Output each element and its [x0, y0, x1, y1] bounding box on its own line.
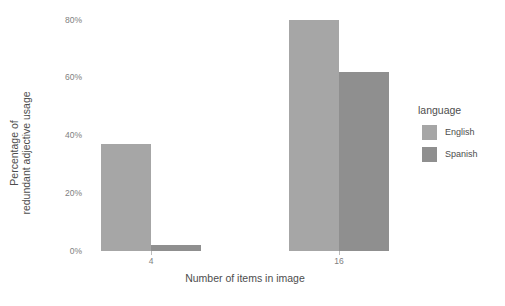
legend-swatch-icon	[422, 147, 437, 162]
y-tick-label: 0%	[36, 246, 82, 256]
y-axis-title-line-1: Percentage of	[8, 91, 21, 214]
plot-area	[85, 8, 405, 251]
legend-items: EnglishSpanish	[418, 122, 503, 164]
x-tick-label: 4	[149, 256, 154, 266]
y-tick-label: 80%	[36, 15, 82, 25]
x-tick-mark	[339, 251, 340, 255]
x-axis-title: Number of items in image	[85, 272, 405, 284]
bar-chart: Percentage of redundant adjective usage …	[0, 0, 505, 306]
bar	[289, 20, 339, 251]
x-tick-mark	[151, 251, 152, 255]
legend-item-english[interactable]: English	[418, 122, 503, 142]
legend-swatch-icon	[422, 125, 437, 140]
y-tick-label: 20%	[36, 188, 82, 198]
legend-title: language	[418, 104, 503, 116]
y-tick-mark	[79, 77, 82, 78]
y-tick-label: 40%	[36, 130, 82, 140]
y-tick-mark	[79, 251, 82, 252]
y-axis-title: Percentage of redundant adjective usage	[0, 0, 40, 306]
y-tick-mark	[79, 20, 82, 21]
legend-label: Spanish	[445, 149, 478, 159]
bar	[101, 144, 151, 251]
y-tick-mark	[79, 135, 82, 136]
bar	[339, 72, 389, 251]
x-tick-label: 16	[334, 256, 343, 266]
x-axis-ticks: 416	[85, 251, 405, 271]
legend-item-spanish[interactable]: Spanish	[418, 144, 503, 164]
y-axis-ticks: 0%20%40%60%80%	[38, 0, 82, 306]
legend-label: English	[445, 127, 475, 137]
y-axis-title-line-2: redundant adjective usage	[20, 91, 33, 214]
y-tick-mark	[79, 193, 82, 194]
y-tick-label: 60%	[36, 72, 82, 82]
legend: language EnglishSpanish	[418, 104, 503, 166]
